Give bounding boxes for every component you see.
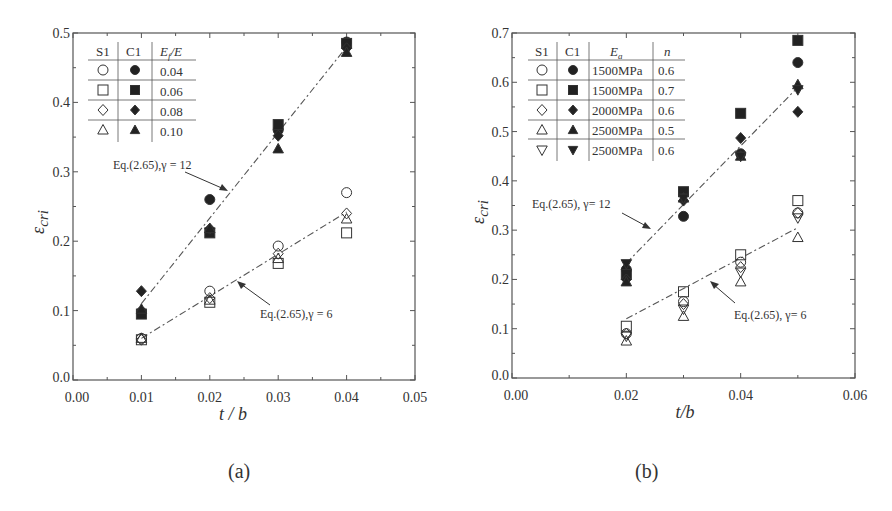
x-tick-label: 0.00 <box>65 390 90 405</box>
annotation-gamma-12: Eq.(2.65),γ = 12 <box>113 158 191 172</box>
x-tick-label: 0.02 <box>614 388 639 403</box>
marker-filled-triangle-up-icon <box>273 143 284 153</box>
arrowhead-icon <box>642 222 651 229</box>
y-axis-title: εcri <box>468 200 491 224</box>
figure-canvas: 0.000.010.020.030.040.050.00.10.20.30.40… <box>0 0 892 511</box>
y-tick-label: 0.4 <box>53 95 71 110</box>
legend-header-ea: Ea <box>609 44 623 61</box>
x-tick-label: 0.01 <box>129 390 154 405</box>
marker-filled-circle-icon <box>679 211 689 221</box>
legend-header-c1: C1 <box>565 44 580 59</box>
marker-open-circle-icon <box>537 65 547 75</box>
chart-panel-a: 0.000.010.020.030.040.050.00.10.20.30.40… <box>28 26 427 424</box>
marker-open-triangle-up-icon <box>793 232 804 242</box>
y-tick-label: 0.2 <box>492 272 510 287</box>
annotation-arrow <box>714 285 735 303</box>
legend-n-value: 0.6 <box>658 63 675 78</box>
legend: S1 C1 Ea n 1500MPa0.61500MPa0.72000MPa0.… <box>528 42 685 161</box>
x-tick-label: 0.00 <box>504 388 529 403</box>
marker-filled-diamond-icon <box>569 105 578 115</box>
axis-ticks <box>73 33 415 380</box>
marker-open-circle-icon <box>342 188 352 198</box>
legend-header-c1: C1 <box>126 44 141 59</box>
marker-open-square-icon <box>793 196 803 206</box>
x-axis-title: t/b <box>675 402 694 422</box>
annotation-gamma-6: Eq.(2.65),γ = 6 <box>260 307 332 321</box>
y-tick-label: 0.5 <box>53 26 71 41</box>
y-tick-label: 0.0 <box>53 370 71 385</box>
y-tick-label: 0.5 <box>492 125 510 140</box>
marker-open-circle-icon <box>273 241 283 251</box>
marker-filled-circle-icon <box>569 66 578 75</box>
annotation-arrow <box>241 284 270 305</box>
legend-value-4: 0.10 <box>160 124 183 139</box>
marker-filled-square-icon <box>736 108 746 118</box>
legend-n-value: 0.6 <box>658 103 675 118</box>
marker-filled-square-icon <box>793 35 803 45</box>
x-tick-label: 0.04 <box>334 390 359 405</box>
chart-panel-b: 0.000.020.040.060.00.10.20.30.40.50.60.7… <box>468 26 867 422</box>
legend-value-3: 0.08 <box>160 104 183 119</box>
marker-open-triangle-up-icon <box>537 125 548 135</box>
legend-n-value: 0.5 <box>658 123 674 138</box>
marker-filled-diamond-icon <box>131 105 140 115</box>
annotation-arrow <box>622 213 646 226</box>
legend-ea-value: 2500MPa <box>592 143 643 158</box>
marker-open-circle-icon <box>98 65 108 75</box>
marker-filled-square-icon <box>273 120 283 130</box>
marker-filled-triangle-up-icon <box>568 125 577 134</box>
marker-open-square-icon <box>342 228 352 238</box>
tick-labels: 0.000.010.020.030.040.050.00.10.20.30.40… <box>53 26 428 405</box>
y-tick-label: 0.3 <box>492 223 510 238</box>
y-tick-label: 0.2 <box>53 234 71 249</box>
marker-filled-triangle-up-icon <box>130 125 139 134</box>
x-tick-label: 0.03 <box>266 390 291 405</box>
marker-filled-square-icon <box>569 86 578 95</box>
x-tick-label: 0.05 <box>403 390 428 405</box>
annotation-gamma-12: Eq.(2.65), γ= 12 <box>532 197 610 211</box>
annotation-arrow <box>185 172 224 189</box>
y-axis-title: εcri <box>28 210 51 234</box>
marker-filled-circle-icon <box>793 58 803 68</box>
x-tick-label: 0.02 <box>198 390 223 405</box>
legend-n-value: 0.7 <box>658 83 675 98</box>
marker-filled-diamond-icon <box>793 106 803 117</box>
arrowhead-icon <box>237 281 246 289</box>
legend-header-n: n <box>664 44 671 59</box>
legend-header-s1: S1 <box>535 44 549 59</box>
y-tick-label: 0.0 <box>492 368 510 383</box>
legend-header-ef: Ef/E <box>159 44 182 61</box>
marker-open-triangle-up-icon <box>678 311 689 321</box>
marker-open-square-icon <box>537 85 547 95</box>
y-tick-label: 0.3 <box>53 165 71 180</box>
marker-open-triangle-up-icon <box>98 125 109 135</box>
marker-filled-triangle-down-icon <box>568 146 577 155</box>
legend-n-value: 0.6 <box>658 143 675 158</box>
marker-filled-circle-icon <box>205 195 215 205</box>
x-tick-label: 0.04 <box>728 388 753 403</box>
legend-ea-value: 2000MPa <box>592 103 643 118</box>
legend-ea-value: 1500MPa <box>592 83 643 98</box>
y-tick-label: 0.1 <box>492 322 510 337</box>
y-tick-label: 0.4 <box>492 174 510 189</box>
legend-value-1: 0.04 <box>160 64 183 79</box>
data-points <box>621 35 803 345</box>
marker-open-triangle-down-icon <box>537 146 548 156</box>
marker-filled-circle-icon <box>131 66 140 75</box>
svg-text:εcri: εcri <box>468 200 491 224</box>
svg-text:εcri: εcri <box>28 210 51 234</box>
y-tick-label: 0.6 <box>492 75 510 90</box>
marker-open-circle-icon <box>621 329 631 339</box>
marker-filled-square-icon <box>131 86 140 95</box>
caption-a: (a) <box>228 460 250 483</box>
legend-value-2: 0.06 <box>160 84 183 99</box>
annotation-gamma-6: Eq.(2.65), γ= 6 <box>734 308 806 322</box>
legend-ea-value: 2500MPa <box>592 123 643 138</box>
caption-b: (b) <box>635 460 658 483</box>
marker-open-square-icon <box>98 85 108 95</box>
legend-header-s1: S1 <box>96 44 110 59</box>
x-axis-title: t / b <box>219 404 247 424</box>
legend-ea-value: 1500MPa <box>592 63 643 78</box>
fit-line <box>626 87 798 263</box>
marker-open-diamond-icon <box>98 105 108 116</box>
